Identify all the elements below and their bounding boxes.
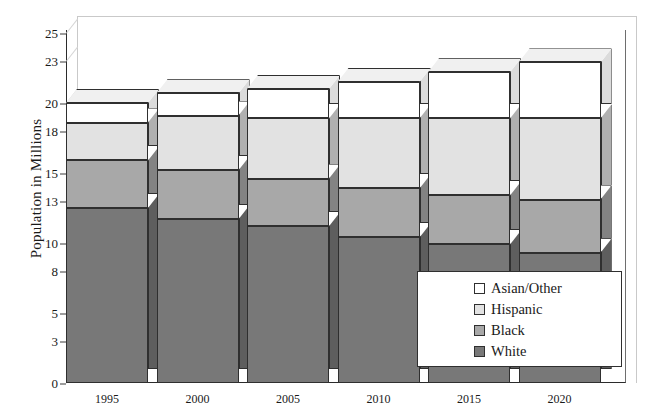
x-tick-label: 2015 <box>424 392 514 407</box>
bar-segment-asian-other <box>247 89 329 118</box>
bar-top-face <box>428 58 521 72</box>
y-tick-label: 3 <box>0 335 66 348</box>
stacked-bar-chart: 035810131518202325 199520002005201020152… <box>0 0 655 420</box>
bar-segment-hispanic <box>247 118 329 178</box>
bar-segment-side <box>601 104 612 185</box>
legend-label: Black <box>491 322 525 339</box>
bar-top-face <box>157 79 250 93</box>
bar-segment-white <box>157 219 239 383</box>
legend-label: Hispanic <box>491 301 543 318</box>
legend-item: Black <box>474 320 621 341</box>
legend-item: Hispanic <box>474 299 621 320</box>
legend-item: White <box>474 341 621 362</box>
bar-segment-black <box>428 195 510 244</box>
bar-segment-asian-other <box>157 93 239 115</box>
legend-swatch <box>474 304 485 315</box>
plot-area: 035810131518202325 199520002005201020152… <box>0 0 655 420</box>
x-tick-label: 2010 <box>334 392 424 407</box>
y-tick-label: 25 <box>0 27 66 40</box>
y-tick-mark <box>60 33 66 34</box>
bar-top-face <box>519 48 612 62</box>
bar-segment-white <box>338 237 420 383</box>
bar-segment-hispanic <box>338 118 420 188</box>
bar-segment-black <box>247 179 329 227</box>
bar-segment-hispanic <box>157 116 239 171</box>
legend-swatch <box>474 325 485 336</box>
bar-top-face <box>338 68 431 82</box>
bar-segment-hispanic <box>66 123 148 161</box>
bar-top-face <box>66 89 159 103</box>
y-tick-mark <box>60 383 66 384</box>
bar-top-face <box>247 75 340 89</box>
bar-segment-black <box>519 200 601 253</box>
bar-segment-hispanic <box>428 118 510 195</box>
chart-legend: Asian/OtherHispanicBlackWhite <box>417 271 622 367</box>
y-tick-label: 0 <box>0 377 66 390</box>
bar-segment-black <box>66 160 148 208</box>
bar-segment-white <box>247 226 329 383</box>
y-tick-mark <box>60 61 66 62</box>
x-tick-label: 2020 <box>515 392 605 407</box>
y-axis-title: Population in Millions <box>28 59 45 319</box>
legend-label: White <box>491 343 526 360</box>
legend-swatch <box>474 346 485 357</box>
x-tick-label: 2005 <box>243 392 333 407</box>
bar-segment-asian-other <box>519 62 601 118</box>
legend-item: Asian/Other <box>474 278 621 299</box>
bar-segment-black <box>338 188 420 237</box>
bar-segment-asian-other <box>338 82 420 118</box>
bar-segment-black <box>157 170 239 219</box>
legend-label: Asian/Other <box>491 280 562 297</box>
x-tick-label: 1995 <box>62 392 152 407</box>
bar-segment-hispanic <box>519 118 601 199</box>
legend-swatch <box>474 283 485 294</box>
bar-segment-white <box>66 208 148 383</box>
bar-segment-asian-other <box>428 72 510 118</box>
bar-segment-asian-other <box>66 103 148 123</box>
x-tick-label: 2000 <box>153 392 243 407</box>
